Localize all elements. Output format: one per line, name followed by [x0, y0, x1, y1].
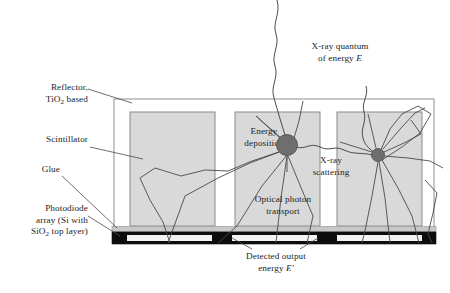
- reflector-label-line2: TiO2 based: [46, 94, 88, 104]
- xray-scattering-line2: scattering: [313, 167, 350, 177]
- scintillator-block-1: [130, 112, 215, 226]
- scintillator-label: Scintillator: [4, 134, 88, 146]
- xray-scattering-label: X-ray scattering: [300, 155, 362, 178]
- xray-quantum-line1: X-ray quantum: [311, 41, 368, 51]
- optical-photon-line2: transport: [266, 206, 300, 216]
- energy-deposition-line2: deposition: [244, 138, 283, 148]
- energy-deposition-line1: Energy: [251, 126, 278, 136]
- detected-output-line1: Detected output: [246, 251, 306, 261]
- reflector-label: Reflector, TiO2 based: [4, 82, 88, 108]
- photodiode-label-line1: Photodiode: [45, 203, 88, 213]
- photodiode-label-line2: array (Si with: [36, 215, 88, 225]
- photodiode-label-line3: SiO2 top layer): [31, 226, 88, 236]
- figure-canvas: Reflector, TiO2 based Scintillator Glue …: [0, 0, 450, 293]
- energy-deposition-label: Energy deposition: [234, 126, 294, 149]
- leader-reflector: [88, 89, 132, 103]
- xray-quantum-label: X-ray quantum of energy E: [288, 41, 392, 64]
- photodiode-pixel-3: [337, 235, 422, 241]
- optical-photon-transport-label: Optical photon transport: [236, 194, 330, 217]
- xray-scattering-line1: X-ray: [320, 155, 342, 165]
- optical-photon-line1: Optical photon: [255, 194, 311, 204]
- photodiode-pixel-2: [232, 235, 317, 241]
- photodiode-label: Photodiode array (Si with SiO2 top layer…: [2, 203, 88, 240]
- detected-output-line2: energy E′: [258, 263, 294, 273]
- glue-label: Glue: [4, 164, 60, 176]
- xray-quantum-line2: of energy E: [318, 53, 362, 63]
- glue-layer: [112, 227, 436, 232]
- detected-output-label: Detected output energy E′: [221, 251, 331, 274]
- reflector-label-line1: Reflector,: [51, 82, 88, 92]
